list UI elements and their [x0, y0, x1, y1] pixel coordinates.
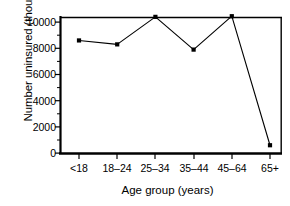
data-point-marker [268, 143, 272, 147]
plot-area [0, 0, 290, 206]
data-point-marker [192, 48, 196, 52]
plot-background [60, 17, 282, 153]
data-point-marker [77, 38, 81, 42]
uninsured-by-age-line-chart: Number uninsured (thousands) 10000 8000 … [0, 0, 290, 206]
data-point-marker [230, 14, 234, 18]
data-point-marker [153, 15, 157, 19]
data-point-marker [115, 42, 119, 46]
